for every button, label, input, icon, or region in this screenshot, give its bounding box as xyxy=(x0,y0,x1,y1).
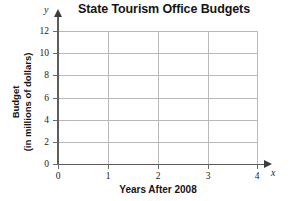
y-tick-mark-10 xyxy=(53,53,58,54)
gridline-vertical-4 xyxy=(257,31,258,164)
gridline-vertical-2 xyxy=(158,31,159,164)
x-axis-line xyxy=(57,164,265,166)
x-axis-title: Years After 2008 xyxy=(58,184,258,195)
x-tick-label-3: 3 xyxy=(199,171,217,181)
x-tick-mark-1 xyxy=(108,164,109,169)
y-axis-variable-letter: y xyxy=(44,4,48,15)
chart-title: State Tourism Office Budgets xyxy=(58,2,270,16)
x-tick-label-1: 1 xyxy=(99,171,117,181)
x-tick-mark-4 xyxy=(257,164,258,169)
x-tick-label-0: 0 xyxy=(49,171,67,181)
y-tick-mark-6 xyxy=(53,98,58,99)
x-tick-label-4: 4 xyxy=(248,171,266,181)
x-tick-mark-0 xyxy=(58,164,59,169)
y-axis-title: Budget (in millions of dollars) xyxy=(10,27,34,177)
x-tick-mark-3 xyxy=(208,164,209,169)
chart-figure: State Tourism Office Budgets y x 12 10 8… xyxy=(0,0,293,201)
x-tick-mark-2 xyxy=(158,164,159,169)
y-tick-mark-4 xyxy=(53,120,58,121)
gridline-vertical-3 xyxy=(208,31,209,164)
y-tick-mark-12 xyxy=(53,31,58,32)
x-tick-label-2: 2 xyxy=(149,171,167,181)
gridline-vertical-1 xyxy=(108,31,109,164)
x-axis-variable-letter: x xyxy=(271,167,275,178)
y-tick-mark-2 xyxy=(53,142,58,143)
y-tick-mark-8 xyxy=(53,75,58,76)
y-axis-title-line-2: (in millions of dollars) xyxy=(22,27,34,177)
y-axis-title-line-1: Budget xyxy=(10,27,22,177)
y-axis-arrow-icon xyxy=(54,9,62,17)
plot-area xyxy=(58,31,258,164)
